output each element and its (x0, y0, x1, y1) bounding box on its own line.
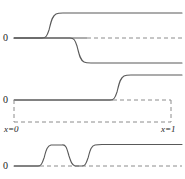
panel-1-rising-step-curve (14, 13, 182, 38)
domain-bounding-box (14, 100, 171, 122)
panel-1-falling-step-curve (14, 38, 182, 63)
step-function-figure: 0 0 0 x=0 x=1 (0, 0, 185, 179)
panel-2-group (14, 75, 182, 122)
plot-canvas (0, 0, 185, 179)
panel-1-group (14, 13, 182, 63)
zero-label-panel-3: 0 (3, 161, 8, 171)
panel-2-rising-step-curve (14, 75, 182, 100)
panel-3-group (14, 145, 182, 167)
zero-label-panel-1: 0 (3, 33, 8, 43)
x-start-label: x=0 (4, 125, 19, 134)
panel-3-pulse-step-curve (14, 145, 182, 167)
x-end-label: x=1 (161, 125, 176, 134)
zero-label-panel-2: 0 (3, 95, 8, 105)
